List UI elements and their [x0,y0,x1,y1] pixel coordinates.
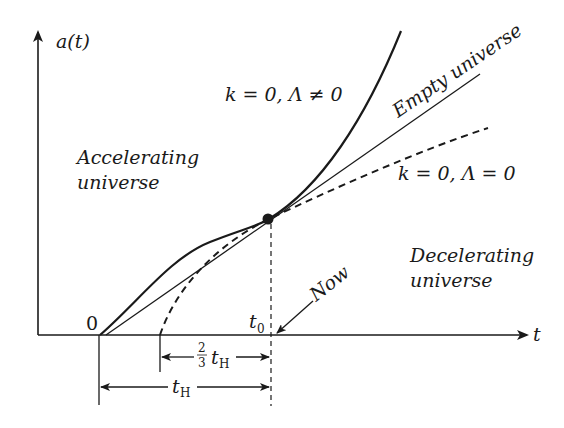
now-annotation: Now [277,261,353,333]
tH-interval: t H [99,335,269,405]
svg-text:Accelerating: Accelerating [75,146,199,168]
svg-text:universe: universe [410,269,493,291]
x-axis: t 0 t 0 [38,310,541,345]
svg-text:H: H [180,386,190,400]
label-accelerating-curve: k = 0, Λ ≠ 0 [225,83,343,105]
svg-text:0: 0 [257,322,265,336]
now-point [263,214,274,225]
now-arrow-icon [277,301,313,333]
curve-matter-only [160,128,488,335]
scale-factor-diagram: a(t) t 0 t 0 k = 0, Λ ≠ 0 Empty universe… [0,0,564,428]
svg-text:t: t [211,346,219,368]
svg-text:universe: universe [77,171,160,193]
decelerating-region-label: Decelerating universe [409,244,534,291]
svg-text:Now: Now [304,261,353,306]
svg-text:Decelerating: Decelerating [409,244,534,266]
svg-text:H: H [219,357,229,371]
curve-empty-universe [106,74,480,335]
svg-text:t: t [172,375,180,397]
t0-label: t 0 [249,310,265,336]
svg-text:3: 3 [198,356,206,370]
label-empty-universe: Empty universe [387,19,525,122]
two-thirds-tH-interval: 2 3 t H [160,335,269,372]
y-axis-label: a(t) [56,30,90,52]
origin-label: 0 [86,312,98,334]
svg-text:t: t [249,310,257,332]
label-matter-curve: k = 0, Λ = 0 [398,162,516,184]
x-axis-label: t [533,323,541,345]
accelerating-region-label: Accelerating universe [75,146,199,193]
svg-text:2: 2 [198,341,206,355]
